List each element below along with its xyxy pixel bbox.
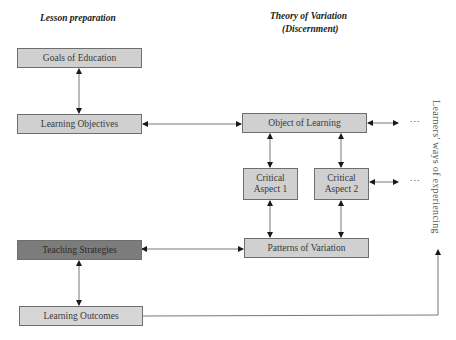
ellipsis-object-more: ...: [410, 113, 421, 124]
box-patterns-of-variation: Patterns of Variation: [244, 238, 369, 258]
box-goals-of-education: Goals of Education: [17, 48, 142, 68]
box-critical-aspect-2: Critical Aspect 2: [314, 168, 369, 200]
box-learning-outcomes: Learning Outcomes: [19, 306, 143, 326]
box-critical-aspect-1: Critical Aspect 1: [243, 168, 298, 200]
arrow-outcomes-learners: [143, 250, 438, 316]
box-learning-objectives: Learning Objectives: [17, 114, 142, 134]
ellipsis-aspect-more: ...: [410, 172, 421, 183]
box-object-of-learning: Object of Learning: [242, 113, 367, 133]
box-teaching-strategies: Teaching Strategies: [17, 240, 142, 260]
label-learners-ways-of-experiencing: Learners' ways of experiencing: [431, 100, 442, 234]
